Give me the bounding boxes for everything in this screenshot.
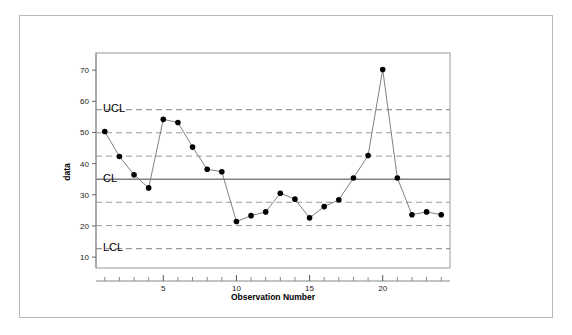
control-chart: 10203040506070 5101520 UCL CL LCL Observ… bbox=[0, 0, 572, 335]
data-point-marker bbox=[175, 120, 181, 126]
y-tick-label: 30 bbox=[80, 191, 89, 200]
data-point-marker bbox=[204, 166, 210, 172]
data-point-marker bbox=[248, 213, 254, 219]
data-point-marker bbox=[321, 204, 327, 210]
y-tick-label: 60 bbox=[80, 97, 89, 106]
data-point-marker bbox=[409, 212, 415, 218]
lcl-label: LCL bbox=[103, 241, 123, 253]
data-point-marker bbox=[365, 153, 371, 159]
data-point-marker bbox=[219, 169, 225, 175]
data-point-marker bbox=[438, 212, 444, 218]
data-point-marker bbox=[102, 129, 108, 135]
data-point-marker bbox=[278, 190, 284, 196]
y-axis-title: data bbox=[62, 163, 72, 181]
data-point-marker bbox=[395, 175, 401, 181]
data-point-marker bbox=[292, 196, 298, 202]
data-point-marker bbox=[190, 144, 196, 150]
y-tick-label: 70 bbox=[80, 66, 89, 75]
data-point-marker bbox=[234, 219, 240, 225]
x-axis-title: Observation Number bbox=[231, 292, 316, 302]
data-point-marker bbox=[336, 197, 342, 203]
chart-page: 10203040506070 5101520 UCL CL LCL Observ… bbox=[0, 0, 572, 335]
plot-area-background bbox=[96, 53, 450, 268]
x-tick-label: 20 bbox=[378, 284, 387, 293]
y-axis-ticks: 10203040506070 bbox=[80, 66, 96, 262]
data-point-marker bbox=[117, 154, 123, 160]
data-point-marker bbox=[424, 209, 430, 215]
y-tick-label: 10 bbox=[80, 253, 89, 262]
data-point-marker bbox=[380, 67, 386, 73]
ucl-label: UCL bbox=[103, 102, 125, 114]
data-point-marker bbox=[307, 215, 313, 221]
data-point-marker bbox=[146, 185, 152, 191]
data-point-marker bbox=[351, 175, 357, 181]
y-tick-label: 50 bbox=[80, 128, 89, 137]
data-point-marker bbox=[160, 117, 166, 123]
x-tick-label: 5 bbox=[161, 284, 166, 293]
y-tick-label: 40 bbox=[80, 160, 89, 169]
x-axis-ticks: 5101520 bbox=[105, 275, 441, 293]
y-tick-label: 20 bbox=[80, 222, 89, 231]
cl-label: CL bbox=[103, 172, 117, 184]
data-point-marker bbox=[131, 172, 137, 178]
data-point-marker bbox=[263, 209, 269, 215]
